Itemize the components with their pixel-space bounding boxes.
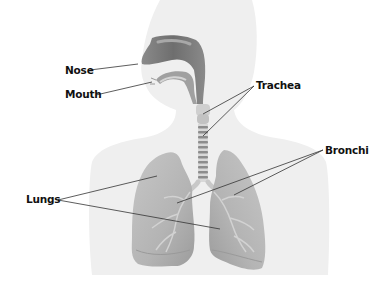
- respiratory-diagram: Nose Mouth Trachea Bronchi Lungs: [0, 0, 385, 289]
- label-lungs: Lungs: [26, 194, 60, 205]
- nose-leader-line: [90, 64, 138, 70]
- label-bronchi: Bronchi: [325, 145, 369, 156]
- label-trachea: Trachea: [256, 80, 301, 91]
- label-nose: Nose: [65, 65, 94, 76]
- label-mouth: Mouth: [65, 89, 102, 100]
- mouth-leader-line: [96, 82, 152, 95]
